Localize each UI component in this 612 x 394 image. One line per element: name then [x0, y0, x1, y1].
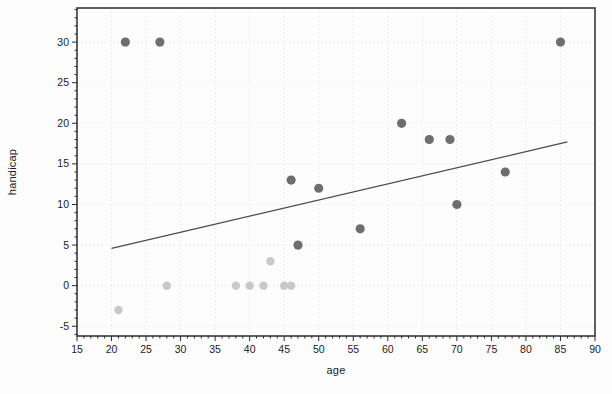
y-tick-label: 25: [57, 76, 69, 88]
y-tick-label: 10: [57, 198, 69, 210]
data-point-dark-gray-group: [121, 37, 130, 46]
data-point-dark-gray-group: [314, 184, 323, 193]
plot-canvas: 15202530354045505560657075808590-5051015…: [0, 0, 612, 394]
y-tick-label: 5: [63, 239, 69, 251]
x-tick-label: 25: [140, 343, 152, 355]
y-tick-label: -5: [60, 320, 69, 332]
x-tick-label: 50: [313, 343, 325, 355]
data-point-light-gray-group: [245, 281, 253, 289]
x-tick-label: 70: [451, 343, 463, 355]
data-point-light-gray-group: [163, 281, 171, 289]
data-point-light-gray-group: [114, 306, 122, 314]
x-tick-label: 45: [278, 343, 290, 355]
data-point-dark-gray-group: [425, 135, 434, 144]
x-axis-title: age: [77, 364, 595, 376]
x-tick-label: 20: [106, 343, 118, 355]
data-point-dark-gray-group: [293, 240, 302, 249]
y-axis-title: handicap: [6, 92, 18, 252]
y-tick-label: 15: [57, 157, 69, 169]
data-point-dark-gray-group: [155, 37, 164, 46]
data-point-dark-gray-group: [397, 119, 406, 128]
data-point-dark-gray-group: [501, 167, 510, 176]
x-tick-label: 40: [244, 343, 256, 355]
x-tick-label: 75: [486, 343, 498, 355]
y-tick-label: 20: [57, 117, 69, 129]
data-point-dark-gray-group: [287, 176, 296, 185]
data-point-dark-gray-group: [556, 37, 565, 46]
data-point-dark-gray-group: [356, 224, 365, 233]
x-tick-label: 55: [347, 343, 359, 355]
data-point-dark-gray-group: [452, 200, 461, 209]
x-tick-label: 35: [209, 343, 221, 355]
data-point-light-gray-group: [232, 281, 240, 289]
x-tick-label: 15: [71, 343, 83, 355]
scatter-plot-figure: 15202530354045505560657075808590-5051015…: [0, 0, 612, 394]
x-tick-label: 65: [416, 343, 428, 355]
data-point-light-gray-group: [266, 257, 274, 265]
x-tick-label: 30: [175, 343, 187, 355]
data-point-dark-gray-group: [445, 135, 454, 144]
x-tick-label: 80: [520, 343, 532, 355]
data-point-light-gray-group: [287, 281, 295, 289]
y-tick-label: 30: [57, 36, 69, 48]
x-tick-label: 85: [555, 343, 567, 355]
x-tick-label: 60: [382, 343, 394, 355]
data-point-light-gray-group: [259, 281, 267, 289]
plot-border: [77, 8, 595, 336]
x-tick-label: 90: [589, 343, 601, 355]
y-tick-label: 0: [63, 279, 69, 291]
trend-line: [112, 142, 568, 248]
